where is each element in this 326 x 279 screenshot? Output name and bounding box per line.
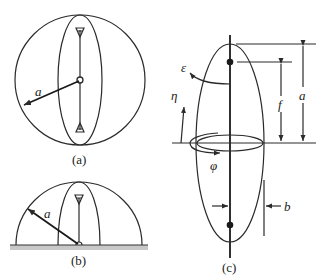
panel-b: a (b) xyxy=(10,182,148,268)
ground-plane xyxy=(10,245,148,250)
epsilon-arrow xyxy=(190,73,230,84)
epsilon-label: ε xyxy=(181,60,187,75)
eta-label: η xyxy=(171,88,177,103)
dimension-a-label: a xyxy=(299,88,306,103)
eta-arrow xyxy=(181,107,184,143)
focus-top xyxy=(227,59,234,66)
panel-a: a (a) xyxy=(15,15,145,167)
phi-label: φ xyxy=(210,158,217,173)
caption-a: (a) xyxy=(72,152,86,167)
panel-c: φ η ε a f b (c) xyxy=(171,35,316,275)
radius-label-b: a xyxy=(44,206,51,221)
dimension-b-label: b xyxy=(284,199,291,214)
caption-c: (c) xyxy=(222,260,236,275)
antenna-geometry-figure: a (a) a (b) φ η ε xyxy=(0,0,326,279)
radius-arrow-b xyxy=(28,209,78,244)
caption-b: (b) xyxy=(71,253,86,268)
radius-label: a xyxy=(35,84,42,99)
focus-bottom xyxy=(227,222,234,229)
radius-arrow xyxy=(24,81,79,105)
